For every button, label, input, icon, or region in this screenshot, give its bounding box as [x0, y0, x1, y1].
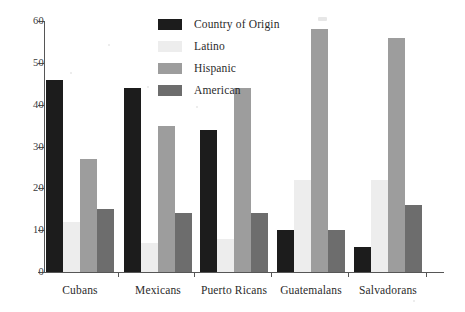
legend-swatch-icon — [158, 63, 182, 74]
y-axis-tick-label: 30 — [18, 142, 44, 152]
y-axis-tick-label: 20 — [18, 183, 44, 193]
bar — [371, 180, 388, 272]
y-axis-line — [44, 21, 45, 272]
bar — [46, 80, 63, 272]
scan-speckle — [318, 17, 327, 21]
bar — [63, 222, 80, 272]
category-label-salvadorans: Salvadorans — [338, 284, 438, 297]
bar — [97, 209, 114, 272]
scan-speckle — [147, 86, 149, 88]
bar — [354, 247, 371, 272]
x-axis-separator — [348, 272, 349, 277]
y-axis-tick-label: 40 — [18, 100, 44, 110]
legend-label: American — [194, 83, 241, 98]
x-axis-separator — [271, 272, 272, 277]
scan-speckle — [413, 300, 415, 302]
bar — [234, 88, 251, 272]
bar — [80, 159, 97, 272]
x-axis-separator — [426, 272, 427, 277]
bar — [175, 213, 192, 272]
scan-speckle — [70, 72, 72, 74]
legend-swatch-icon — [158, 19, 182, 30]
x-axis-separator — [194, 272, 195, 277]
y-axis-tick-label: 50 — [18, 58, 44, 68]
legend-swatch-icon — [158, 41, 182, 52]
bar — [277, 230, 294, 272]
bar — [141, 243, 158, 272]
bar — [200, 130, 217, 272]
y-axis-tick-label: 10 — [18, 225, 44, 235]
bar — [294, 180, 311, 272]
bar — [311, 29, 328, 272]
x-axis-separator — [118, 272, 119, 277]
scan-speckle — [108, 44, 110, 46]
legend-label: Country of Origin — [194, 17, 280, 32]
x-axis-line — [44, 272, 444, 273]
bar — [251, 213, 268, 272]
y-axis-tick-label: 60 — [18, 16, 44, 26]
bar — [217, 239, 234, 272]
y-axis-tick-label: 0 — [18, 267, 44, 277]
legend-label: Hispanic — [194, 61, 236, 76]
scan-speckle — [196, 106, 198, 108]
bar — [388, 38, 405, 272]
legend-label: Latino — [194, 39, 225, 54]
bar-chart: 0102030405060 CubansMexicansPuerto Rican… — [0, 0, 465, 312]
bar — [158, 126, 175, 272]
bar — [124, 88, 141, 272]
bar — [328, 230, 345, 272]
bar — [405, 205, 422, 272]
legend-swatch-icon — [158, 85, 182, 96]
